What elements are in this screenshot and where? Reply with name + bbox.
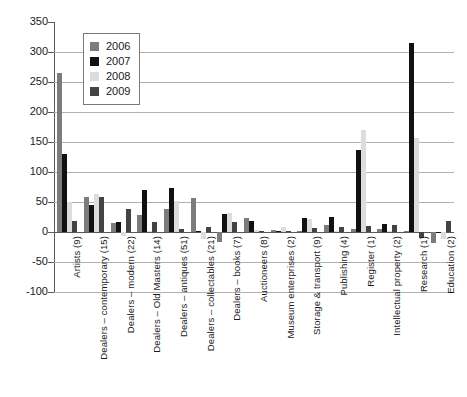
y-axis-tick-label: 350 bbox=[4, 16, 48, 27]
legend-color-swatch bbox=[90, 72, 99, 81]
bar bbox=[72, 221, 77, 232]
y-axis-tick-label: 300 bbox=[4, 46, 48, 57]
y-axis-tick-label: 100 bbox=[4, 166, 48, 177]
y-axis-tick-label: 200 bbox=[4, 106, 48, 117]
y-axis-tick bbox=[48, 112, 54, 113]
x-axis-category-label: Dealers – collectables (21) bbox=[205, 236, 216, 351]
legend-color-swatch bbox=[90, 87, 99, 96]
bar bbox=[366, 226, 371, 232]
bar bbox=[259, 231, 264, 232]
bar bbox=[446, 221, 451, 232]
y-axis-tick bbox=[48, 292, 54, 293]
y-axis-tick bbox=[48, 172, 54, 173]
x-axis-labels: Artists (9)Dealers – contemporary (15)De… bbox=[54, 236, 454, 396]
bar bbox=[414, 138, 419, 232]
legend-item: 2006 bbox=[90, 39, 130, 54]
bar bbox=[116, 222, 121, 232]
legend-label: 2006 bbox=[106, 41, 130, 52]
bar bbox=[329, 217, 334, 232]
y-axis-tick-label: 150 bbox=[4, 136, 48, 147]
bar bbox=[191, 198, 196, 232]
legend-label: 2009 bbox=[106, 86, 130, 97]
x-axis-category-label: Dealers – Old Masters (14) bbox=[151, 236, 162, 353]
y-axis-tick-label: -100 bbox=[4, 286, 48, 297]
grouped-bar-chart: 350300250200150100500-50-100 Artists (9)… bbox=[0, 0, 467, 397]
x-axis-category-label: Storage & transport (9) bbox=[311, 236, 322, 335]
bar bbox=[392, 225, 397, 232]
bar bbox=[232, 222, 237, 232]
legend-item: 2007 bbox=[90, 54, 130, 69]
bar bbox=[179, 229, 184, 232]
y-axis-tick bbox=[48, 52, 54, 53]
bar bbox=[142, 190, 147, 232]
x-axis-category-label: Education (2) bbox=[445, 236, 456, 294]
x-axis-category-label: Auctioneers (8) bbox=[258, 236, 269, 302]
bar bbox=[174, 201, 179, 232]
y-axis-tick bbox=[48, 262, 54, 263]
bar bbox=[339, 227, 344, 232]
x-axis-category-label: Museum enterprises (2) bbox=[285, 236, 296, 339]
y-axis-tick bbox=[48, 202, 54, 203]
x-axis-category-label: Dealers – antiques (51) bbox=[178, 236, 189, 337]
x-axis-category-label: Artists (9) bbox=[71, 236, 82, 278]
x-axis-category-label: Dealers – contemporary (15) bbox=[98, 236, 109, 360]
x-axis-category-label: Dealers – modern (22) bbox=[125, 236, 136, 333]
bar bbox=[312, 228, 317, 232]
legend-label: 2007 bbox=[106, 56, 130, 67]
y-axis-tick-label: -50 bbox=[4, 256, 48, 267]
y-axis-tick-label: 250 bbox=[4, 76, 48, 87]
y-axis-tick-label: 0 bbox=[4, 226, 48, 237]
x-axis-category-label: Register (1) bbox=[365, 236, 376, 287]
y-axis-tick-label: 50 bbox=[4, 196, 48, 207]
legend-item: 2009 bbox=[90, 84, 130, 99]
bar bbox=[206, 227, 211, 232]
bar bbox=[361, 130, 366, 232]
y-axis-tick bbox=[48, 142, 54, 143]
bar bbox=[99, 197, 104, 232]
y-axis-tick bbox=[48, 22, 54, 23]
y-axis-tick bbox=[48, 232, 54, 233]
bar bbox=[286, 231, 291, 232]
legend-color-swatch bbox=[90, 42, 99, 51]
x-axis-category-label: Research (1) bbox=[418, 236, 429, 292]
legend-item: 2008 bbox=[90, 69, 130, 84]
legend-color-swatch bbox=[90, 57, 99, 66]
x-axis-category-label: Intellectual property (2) bbox=[391, 236, 402, 336]
legend: 2006200720082009 bbox=[83, 33, 140, 105]
y-axis-tick bbox=[48, 82, 54, 83]
x-axis-category-label: Dealers – books (7) bbox=[231, 236, 242, 321]
legend-label: 2008 bbox=[106, 71, 130, 82]
bar bbox=[152, 222, 157, 232]
bar bbox=[126, 209, 131, 232]
x-axis-category-label: Publishing (4) bbox=[338, 236, 349, 296]
